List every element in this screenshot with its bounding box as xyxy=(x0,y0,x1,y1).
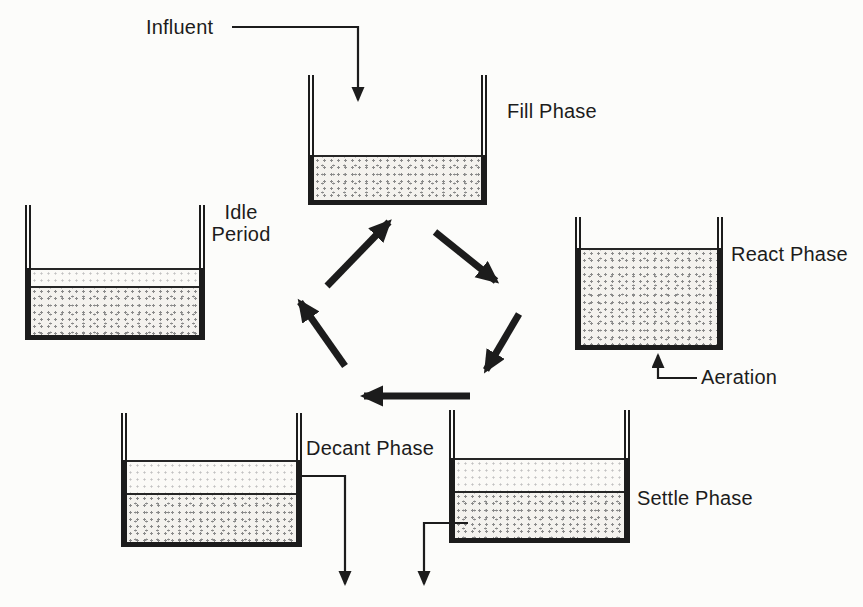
tank-wall-left-upper xyxy=(25,205,31,270)
idle-period-label: Idle Period xyxy=(205,201,277,245)
react-phase-tank xyxy=(575,217,723,350)
tank-wall-right-lower xyxy=(199,268,205,340)
arrow-decant-to-idle xyxy=(300,302,345,366)
fill-phase-tank xyxy=(308,75,487,205)
arrow-idle-to-fill xyxy=(327,222,389,286)
tank-wall-right-upper xyxy=(296,413,302,462)
tank-wall-right-upper xyxy=(481,75,487,157)
arrow-fill-to-react xyxy=(435,232,496,281)
react-phase-label: React Phase xyxy=(731,243,848,265)
decant-sludge-layer xyxy=(127,493,296,542)
tank-bottom xyxy=(449,538,630,543)
idle-sludge-layer xyxy=(31,286,199,335)
tank-wall-left-upper xyxy=(121,413,127,462)
settle-phase-tank xyxy=(449,410,630,543)
settle-supernatant-layer xyxy=(455,458,624,491)
tank-bottom xyxy=(308,200,487,205)
aeration-pipe-arrow xyxy=(658,355,697,378)
fill-phase-label: Fill Phase xyxy=(507,100,597,122)
tank-wall-left-upper xyxy=(308,75,314,157)
react-mixed-liquor-layer xyxy=(581,248,717,345)
tank-wall-right-lower xyxy=(717,248,723,350)
tank-wall-left-upper xyxy=(449,410,455,460)
aeration-label: Aeration xyxy=(701,366,777,388)
tank-wall-left-upper xyxy=(575,217,581,250)
influent-label: Influent xyxy=(146,16,213,38)
idle-period-tank xyxy=(25,205,205,340)
tank-bottom xyxy=(25,335,205,340)
settle-sludge-layer xyxy=(455,491,624,538)
tank-wall-right-upper xyxy=(624,410,630,460)
decant-supernatant-layer xyxy=(127,460,296,493)
tank-wall-right-lower xyxy=(481,155,487,205)
sbr-cycle-diagram: Influent Fill Phase React Phase Aeration… xyxy=(0,0,863,607)
tank-wall-right-lower xyxy=(624,458,630,543)
decant-phase-label: Decant Phase xyxy=(306,437,434,459)
tank-wall-right-lower xyxy=(296,460,302,547)
idle-supernatant-layer xyxy=(31,268,199,286)
settle-phase-label: Settle Phase xyxy=(637,487,753,509)
decant-effluent-outlet-arrow xyxy=(301,476,345,584)
tank-wall-right-upper xyxy=(717,217,723,250)
tank-bottom xyxy=(575,345,723,350)
tank-bottom xyxy=(121,542,302,547)
fill-mixed-liquor-layer xyxy=(314,155,481,200)
decant-phase-tank xyxy=(121,413,302,547)
arrow-react-to-settle xyxy=(486,314,519,370)
